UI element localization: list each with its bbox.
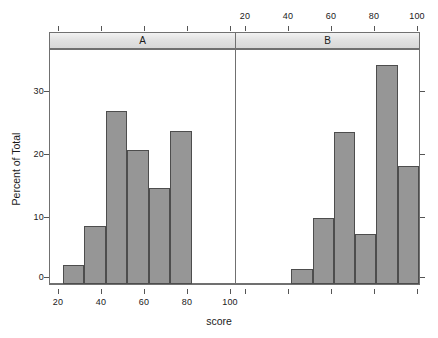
panel-b-bottom-tick-60 xyxy=(331,289,332,294)
y-tick-mark-0-right xyxy=(420,277,425,278)
panel-a-top-tick-80 xyxy=(187,26,188,31)
panel-strip-a: A xyxy=(49,32,236,49)
panel-b-top-tick-20 xyxy=(245,26,246,31)
y-tick-mark-20-right xyxy=(420,154,425,155)
histogram-bar xyxy=(334,132,355,284)
histogram-bar xyxy=(127,150,149,284)
histogram-bar xyxy=(313,218,334,284)
y-axis-title-container: Percent of Total xyxy=(12,0,26,310)
panel-a-bottom-label-60: 60 xyxy=(132,297,156,307)
panel-b-bottom-tick-20 xyxy=(245,289,246,294)
panel-a-top-tick-100 xyxy=(230,26,231,31)
panel-a-bottom-tick-60 xyxy=(144,289,145,294)
panel-b-top-label-60: 60 xyxy=(319,11,343,21)
panel-a-bottom-label-100: 100 xyxy=(218,297,242,307)
panel-a-top-tick-40 xyxy=(101,26,102,31)
histogram-bar xyxy=(149,188,171,284)
panel-a-bottom-label-40: 40 xyxy=(89,297,113,307)
trellis-histogram-figure: Percent of Total 30 20 10 0 A B 20 40 60… xyxy=(0,0,438,338)
panel-a-bottom-tick-40 xyxy=(101,289,102,294)
y-tick-mark-10-right xyxy=(420,217,425,218)
panel-strip-b-label: B xyxy=(324,35,331,46)
panel-b-top-tick-100 xyxy=(417,26,418,31)
panel-a-top-tick-20 xyxy=(58,26,59,31)
panel-b-top-label-20: 20 xyxy=(233,11,257,21)
panel-a-bottom-label-80: 80 xyxy=(175,297,199,307)
panel-b-bottom-tick-80 xyxy=(374,289,375,294)
panel-b-top-label-80: 80 xyxy=(362,11,386,21)
panel-plot-a xyxy=(49,49,236,285)
panel-b-top-tick-80 xyxy=(374,26,375,31)
histogram-bar xyxy=(106,111,128,284)
histogram-bar xyxy=(398,166,419,284)
panel-b-top-label-40: 40 xyxy=(276,11,300,21)
panel-a-top-tick-60 xyxy=(144,26,145,31)
histogram-bar xyxy=(355,234,376,284)
panel-a-bottom-label-20: 20 xyxy=(46,297,70,307)
histogram-bar xyxy=(170,131,192,284)
panel-a-bottom-tick-100 xyxy=(230,289,231,294)
histogram-bar xyxy=(291,269,312,284)
panel-b-bottom-tick-40 xyxy=(288,289,289,294)
histogram-bar xyxy=(376,65,397,284)
y-tick-mark-30-right xyxy=(420,91,425,92)
panel-b-top-tick-40 xyxy=(288,26,289,31)
panel-plot-b xyxy=(235,49,420,285)
y-tick-label-10: 10 xyxy=(30,212,44,222)
panel-a-bottom-tick-80 xyxy=(187,289,188,294)
panel-b-bottom-tick-100 xyxy=(417,289,418,294)
histogram-bar xyxy=(63,265,85,284)
panel-strip-a-label: A xyxy=(139,35,146,46)
y-tick-label-30: 30 xyxy=(30,86,44,96)
panel-b-top-label-100: 100 xyxy=(405,11,429,21)
x-axis-title: score xyxy=(206,315,232,327)
y-tick-label-0: 0 xyxy=(30,272,44,282)
y-axis-title: Percent of Total xyxy=(10,133,22,206)
panel-strip-b: B xyxy=(235,32,420,49)
histogram-bar xyxy=(84,226,106,284)
y-tick-label-20: 20 xyxy=(30,149,44,159)
panel-a-bottom-tick-20 xyxy=(58,289,59,294)
panel-b-top-tick-60 xyxy=(331,26,332,31)
